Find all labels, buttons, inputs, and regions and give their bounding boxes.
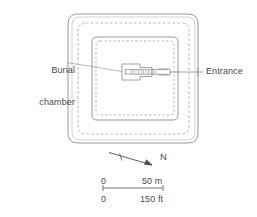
scale-imperial-value-label: 150 ft: [140, 194, 163, 205]
burial-chamber-outline: [122, 64, 152, 80]
pyramid-site-plan-figure: Burial chamber Entrance N 0 50 m 0 150 f…: [0, 0, 257, 217]
burial-chamber-label-line2: chamber: [17, 97, 75, 108]
burial-chamber-leader-line: [67, 63, 122, 72]
outer-mound-outline: [68, 14, 198, 143]
outer-terrace-dashed: [78, 23, 189, 134]
burial-chamber-label-line1: Burial: [17, 65, 75, 76]
scale-imperial-zero-label: 0: [101, 194, 106, 205]
burial-chamber-inner-box: [126, 70, 132, 75]
corridor-hatching: [134, 70, 157, 74]
burial-chamber-label: Burial chamber: [17, 44, 75, 128]
inner-terrace-dashed: [96, 41, 174, 115]
north-direction-label: N: [160, 152, 167, 163]
inner-platform-outline: [92, 37, 178, 120]
entrance-label: Entrance: [206, 66, 243, 77]
entrance-corridor-walls: [131, 70, 168, 75]
outer-mound-inner-edge: [72, 17, 195, 140]
scale-metric-value-label: 50 m: [142, 176, 162, 187]
scale-metric-zero-label: 0: [101, 176, 106, 187]
north-arrow: [109, 153, 152, 166]
